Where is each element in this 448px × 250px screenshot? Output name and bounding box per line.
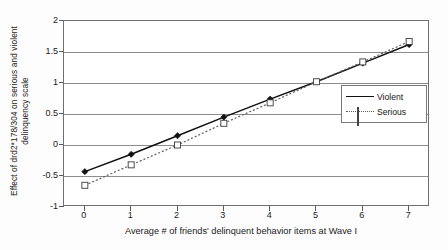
x-tick-mark (84, 206, 85, 211)
violent-line-swatch-icon (346, 91, 374, 103)
legend-label-serious: Serious (377, 107, 406, 117)
serious-line-swatch-icon (346, 106, 374, 118)
x-axis-title: Average # of friends' delinquent behavio… (40, 226, 442, 236)
y-tick-label: 1.5 (24, 46, 58, 56)
legend-label-violent: Violent (377, 92, 403, 102)
x-tick-label: 4 (256, 210, 282, 220)
data-point-serious-x3[interactable] (221, 120, 227, 126)
data-point-serious-x6[interactable] (360, 59, 366, 65)
x-tick-mark (223, 206, 224, 211)
y-tick-label: 0.5 (24, 108, 58, 118)
x-tick-label: 5 (302, 210, 328, 220)
legend: Violent Serious (341, 85, 427, 123)
chart-container: Effect of drd2*178/304 on serious and vi… (0, 0, 448, 250)
y-tick-label: -0.5 (24, 170, 58, 180)
x-tick-label: 1 (117, 210, 143, 220)
x-tick-mark (177, 206, 178, 211)
data-point-serious-x0[interactable] (82, 182, 88, 188)
data-point-violent-x2[interactable] (174, 133, 180, 139)
x-tick-mark (315, 206, 316, 211)
data-point-violent-x1[interactable] (128, 151, 134, 157)
x-tick-label: 3 (210, 210, 236, 220)
y-axis-title-line1: Effect of drd2*178/304 on serious and vi… (9, 26, 19, 196)
x-tick-mark (362, 206, 363, 211)
data-point-violent-x0[interactable] (82, 169, 88, 175)
data-point-serious-x2[interactable] (175, 142, 181, 148)
x-tick-mark (269, 206, 270, 211)
y-tick-label: 1 (24, 77, 58, 87)
x-tick-label: 7 (395, 210, 421, 220)
data-point-serious-x1[interactable] (128, 162, 134, 168)
x-tick-mark (408, 206, 409, 211)
legend-item-violent[interactable]: Violent (346, 89, 422, 104)
plot-area: Violent Serious (63, 20, 429, 206)
data-point-serious-x7[interactable] (406, 38, 412, 44)
x-tick-label: 2 (164, 210, 190, 220)
x-tick-label: 0 (71, 210, 97, 220)
y-tick-label: 2 (24, 15, 58, 25)
data-point-serious-x5[interactable] (313, 79, 319, 85)
x-tick-mark (130, 206, 131, 211)
legend-item-serious[interactable]: Serious (346, 104, 422, 119)
open-square-marker-icon (357, 107, 359, 126)
data-point-serious-x4[interactable] (267, 100, 273, 106)
x-tick-label: 6 (349, 210, 375, 220)
y-tick-label: -1 (24, 201, 58, 211)
y-tick-label: 0 (24, 139, 58, 149)
data-point-violent-x3[interactable] (221, 114, 227, 120)
